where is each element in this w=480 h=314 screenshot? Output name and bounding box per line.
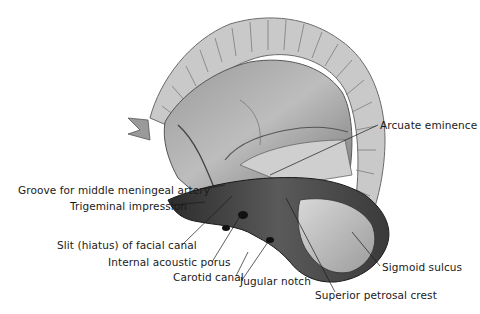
label-slit-hiatus-facial-canal: Slit (hiatus) of facial canal (57, 239, 197, 251)
label-sigmoid-sulcus: Sigmoid sulcus (382, 261, 462, 273)
label-arcuate-eminence: Arcuate eminence (380, 119, 477, 131)
carotid-canal-hole (222, 225, 230, 231)
zygomatic-process (128, 118, 150, 140)
label-jugular-notch: Jugular notch (240, 275, 311, 287)
label-carotid-canal: Carotid canal (173, 271, 244, 283)
jugular-notch-hole (266, 237, 274, 243)
label-groove-middle-meningeal-artery: Groove for middle meningeal artery (18, 184, 210, 196)
label-superior-petrosal-crest: Superior petrosal crest (315, 289, 437, 301)
temporal-bone-figure: Arcuate eminence Groove for middle menin… (0, 0, 480, 314)
internal-acoustic-porus-hole (238, 211, 248, 219)
label-internal-acoustic-porus: Internal acoustic porus (108, 256, 231, 268)
label-trigeminal-impression: Trigeminal impression (70, 200, 187, 212)
